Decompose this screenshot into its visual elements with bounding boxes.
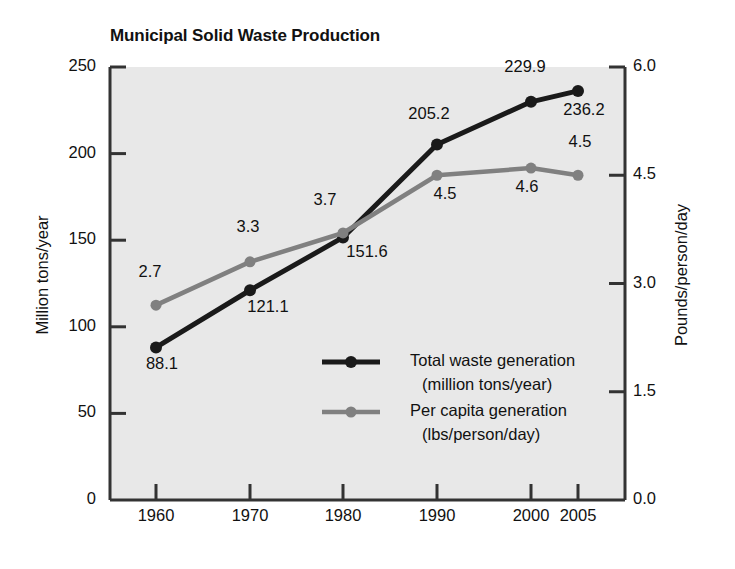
x-axis-tick-label-1990: 1990 [402,506,472,525]
data-label-total-waste-1970: 121.1 [233,297,303,316]
legend-swatch-marker-0 [345,356,357,368]
data-point-per-capita-2000 [526,163,537,174]
data-point-total-waste-1970 [244,284,256,296]
data-label-total-waste-2000: 229.9 [490,57,560,76]
data-label-total-waste-2005: 236.2 [549,100,619,119]
data-point-total-waste-1990 [431,139,443,151]
y-axis-left-tick-label-0: 0 [36,489,96,508]
legend-entry-0-name: Total waste generation [410,351,575,370]
x-axis-tick-label-1960: 1960 [121,506,191,525]
data-label-total-waste-1990: 205.2 [394,104,464,123]
data-label-per-capita-1960: 2.7 [115,262,185,281]
data-label-per-capita-1980: 3.7 [290,190,360,209]
y-axis-right-tick-label-1.5: 1.5 [633,381,693,400]
legend-entry-1-name: Per capita generation [410,401,567,420]
data-point-total-waste-2000 [525,96,537,108]
data-point-total-waste-2005 [572,85,584,97]
y-axis-right-tick-label-4.5: 4.5 [633,164,693,183]
data-point-total-waste-1960 [150,341,162,353]
x-axis-tick-label-1980: 1980 [308,506,378,525]
y-axis-right-tick-label-0.0: 0.0 [633,489,693,508]
data-label-per-capita-2005: 4.5 [545,132,615,151]
plot-canvas [0,0,735,569]
data-label-per-capita-1990: 4.5 [410,184,480,203]
legend-entry-0-unit: (million tons/year) [422,375,552,394]
x-axis-tick-label-2005: 2005 [543,506,613,525]
data-label-per-capita-2000: 4.6 [492,177,562,196]
data-point-per-capita-1980 [338,227,349,238]
y-axis-left-tick-label-50: 50 [36,402,96,421]
data-point-per-capita-1960 [151,300,162,311]
y-axis-left-tick-label-100: 100 [36,316,96,335]
data-label-total-waste-1960: 88.1 [127,354,197,373]
chart-figure: Municipal Solid Waste Production Million… [0,0,735,569]
data-point-per-capita-1990 [432,170,443,181]
data-label-per-capita-1970: 3.3 [213,217,283,236]
data-point-per-capita-1970 [245,256,256,267]
legend-swatch-marker-1 [346,407,357,418]
x-axis-tick-label-1970: 1970 [215,506,285,525]
y-axis-left-tick-label-150: 150 [36,229,96,248]
y-axis-right-tick-label-6.0: 6.0 [633,56,693,75]
data-point-per-capita-2005 [573,170,584,181]
legend-entry-1-unit: (lbs/person/day) [422,425,540,444]
data-label-total-waste-1980: 151.6 [332,242,402,261]
y-axis-right-tick-label-3.0: 3.0 [633,273,693,292]
y-axis-left-tick-label-250: 250 [36,56,96,75]
y-axis-left-title: Million tons/year [33,175,52,375]
y-axis-left-tick-label-200: 200 [36,143,96,162]
